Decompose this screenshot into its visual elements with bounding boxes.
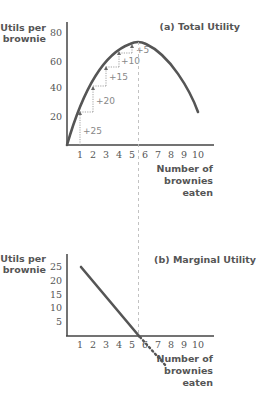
x-tick: 10: [192, 339, 204, 350]
marginal-utility-line: [81, 267, 139, 336]
x-tick: 7: [155, 149, 161, 160]
x-tick: 7: [155, 339, 161, 350]
marginal-utility-chart: Utils per brownie (b) Marginal Utility 2…: [0, 253, 256, 388]
x-tick: 5: [129, 149, 135, 160]
utility-charts: Utils per brownie (a) Total Utility 80 6…: [0, 0, 258, 401]
ylabel-line2: brownie: [3, 264, 46, 275]
x-tick: 6: [142, 149, 148, 160]
xlabel-line3: eaten: [182, 187, 213, 198]
x-tick: 9: [181, 339, 187, 350]
xlabel-line1: Number of: [156, 163, 213, 174]
x-tick: 1: [77, 339, 83, 350]
y-tick: 20: [50, 111, 62, 122]
y-tick: 20: [50, 275, 62, 286]
chart-title: (b) Marginal Utility: [154, 254, 257, 265]
chart-title: (a) Total Utility: [160, 21, 241, 32]
increment-label: +15: [109, 72, 128, 82]
x-tick: 3: [103, 149, 109, 160]
y-tick: 10: [50, 302, 62, 313]
y-tick: 60: [50, 56, 62, 67]
x-tick: 4: [116, 149, 122, 160]
xlabel-line2: brownies: [164, 365, 213, 376]
increment-label: +25: [83, 126, 102, 136]
marginal-utility-negative-dotted: [140, 337, 166, 366]
y-tick: 80: [50, 27, 62, 38]
x-tick: 1: [77, 149, 83, 160]
increment-label: +20: [96, 96, 115, 106]
x-tick: 8: [168, 339, 174, 350]
y-tick: 25: [50, 261, 62, 272]
y-tick: 40: [50, 82, 62, 93]
x-ticks: 1 2 3 4 5 6 7 8 9 10: [77, 149, 204, 160]
x-tick: 8: [168, 149, 174, 160]
xlabel-line1: Number of: [156, 353, 213, 364]
xlabel-line3: eaten: [182, 377, 213, 388]
x-tick: 2: [90, 339, 96, 350]
x-tick: 2: [90, 149, 96, 160]
x-tick: 9: [181, 149, 187, 160]
x-tick: 10: [192, 149, 204, 160]
x-tick: 5: [129, 339, 135, 350]
ylabel-line2: brownie: [3, 33, 46, 44]
total-utility-chart: Utils per brownie (a) Total Utility 80 6…: [0, 21, 240, 198]
x-tick: 3: [103, 339, 109, 350]
y-tick: 15: [50, 289, 62, 300]
ylabel-line1: Utils per: [0, 253, 46, 264]
increment-label: +5: [136, 45, 149, 55]
x-tick: 4: [116, 339, 122, 350]
y-tick: 5: [56, 316, 62, 327]
ylabel-line1: Utils per: [0, 22, 46, 33]
increment-label: +10: [121, 56, 140, 66]
x-ticks: 1 2 3 4 5 6 7 8 9 10: [77, 339, 204, 350]
xlabel-line2: brownies: [164, 175, 213, 186]
